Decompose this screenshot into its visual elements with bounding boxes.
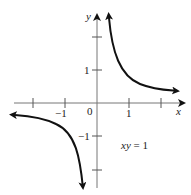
y-axis-label: y: [85, 10, 91, 22]
equation-label: xy = 1: [120, 139, 148, 151]
x-tick-label-1: 1: [126, 107, 132, 119]
origin-label: 0: [87, 105, 93, 117]
x-tick-label-neg1: −1: [55, 107, 67, 119]
y-tick-label-neg1: −1: [78, 130, 90, 142]
hyperbola-chart: y x 0 1 −1 1 −1 xy = 1: [0, 0, 191, 195]
hyperbola-branch-positive: [109, 18, 178, 91]
hyperbola-branch-negative: [15, 115, 83, 188]
x-axis-label: x: [175, 105, 181, 117]
y-tick-label-1: 1: [84, 64, 90, 76]
